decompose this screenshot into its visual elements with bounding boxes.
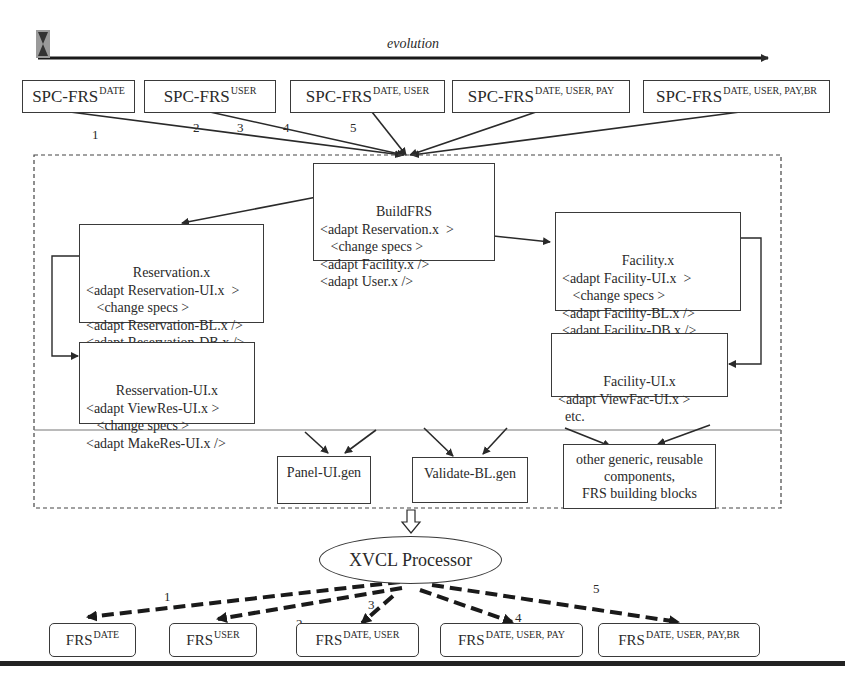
xvcl-processor-node: XVCL Processor <box>319 536 502 584</box>
reservation-title: Reservation.x <box>86 264 257 282</box>
frs-base: FRS <box>316 632 343 649</box>
output-edge-label-3: 3 <box>368 597 375 613</box>
validate-bl-gen-box: Validate-BL.gen <box>412 457 528 503</box>
frs-base: FRS <box>618 632 645 649</box>
evolution-label: evolution <box>387 36 439 52</box>
spc-base: SPC-FRS <box>306 87 372 107</box>
reservation-line: <adapt Reservation-BL.x /> <box>86 318 243 333</box>
buildfrs-title: BuildFRS <box>320 203 488 221</box>
other-components-box: other generic, reusable components, FRS … <box>563 444 716 509</box>
buildfrs-line: <adapt Reservation.x > <box>320 222 454 237</box>
spc-base: SPC-FRS <box>656 87 722 107</box>
reservation-ui-line: <adapt ViewRes-UI.x > <box>86 401 219 416</box>
edge-label-5: 5 <box>350 120 357 136</box>
edge-label-2: 2 <box>193 120 200 136</box>
spc-base: SPC-FRS <box>164 87 230 107</box>
buildfrs-line: <change specs > <box>320 239 423 254</box>
buildfrs-box: BuildFRS<adapt Reservation.x > <change s… <box>313 163 495 261</box>
facility-ui-title: Facility-UI.x <box>558 373 721 391</box>
frs-sup: DATE, USER <box>343 629 399 640</box>
other-components-line: FRS building blocks <box>564 485 715 502</box>
facility-ui-box: Facility-UI.x<adapt ViewFac-UI.x > etc. <box>551 333 728 397</box>
frs-base: FRS <box>458 632 485 649</box>
reservation-line: <adapt Reservation-UI.x > <box>86 283 239 298</box>
spc-sup: DATE <box>99 85 125 96</box>
frs-output-user: FRSUSER <box>169 623 257 657</box>
spc-box-date-user: SPC-FRSDATE, USER <box>290 80 445 113</box>
facility-title: Facility.x <box>562 252 734 270</box>
spc-box-date-user-pay: SPC-FRSDATE, USER, PAY <box>452 80 630 113</box>
frs-sup: DATE, USER, PAY <box>486 629 565 640</box>
facility-line: <adapt Facility-BL.x /> <box>562 306 695 321</box>
spc-base: SPC-FRS <box>32 87 98 107</box>
buildfrs-line: <adapt Facility.x /> <box>320 257 429 272</box>
hourglass-icon <box>36 30 50 58</box>
facility-line: <change specs > <box>562 288 665 303</box>
frs-output-date-user-pay: FRSDATE, USER, PAY <box>440 623 583 657</box>
output-edge-label-1: 1 <box>164 589 171 605</box>
facility-ui-line: <adapt ViewFac-UI.x > <box>558 392 691 407</box>
reservation-line: <change specs > <box>86 300 189 315</box>
panel-ui-gen-label: Panel-UI.gen <box>287 465 361 480</box>
reservation-ui-line: <change specs > <box>86 418 189 433</box>
other-components-line: components, <box>564 468 715 485</box>
output-edge-label-5: 5 <box>593 581 600 597</box>
edge-label-3: 3 <box>237 120 244 136</box>
frs-output-date-user: FRSDATE, USER <box>296 623 419 657</box>
other-components-line: other generic, reusable <box>564 451 715 468</box>
facility-line: <adapt Facility-UI.x > <box>562 271 691 286</box>
spc-box-user: SPC-FRSUSER <box>144 80 276 113</box>
frs-base: FRS <box>186 632 213 649</box>
frs-sup: DATE <box>94 629 120 640</box>
frs-base: FRS <box>66 632 93 649</box>
frs-sup: DATE, USER, PAY,BR <box>646 629 740 640</box>
frs-output-date: FRSDATE <box>49 623 136 657</box>
spc-sup: USER <box>231 85 257 96</box>
buildfrs-line: <adapt User.x /> <box>320 274 413 289</box>
edge-label-1: 1 <box>92 127 99 143</box>
reservation-ui-box: Resservation-UI.x<adapt ViewRes-UI.x > <… <box>79 342 255 424</box>
reservation-box: Reservation.x<adapt Reservation-UI.x > <… <box>79 224 264 323</box>
reservation-ui-title: Resservation-UI.x <box>86 382 248 400</box>
validate-bl-gen-label: Validate-BL.gen <box>424 466 516 481</box>
spc-box-date: SPC-FRSDATE <box>22 80 135 113</box>
spc-sup: DATE, USER, PAY,BR <box>723 85 817 96</box>
xvcl-processor-label: XVCL Processor <box>349 550 472 571</box>
spc-base: SPC-FRS <box>468 87 534 107</box>
spc-box-date-user-pay-br: SPC-FRSDATE, USER, PAY,BR <box>643 80 830 113</box>
facility-ui-line: etc. <box>558 409 585 424</box>
frs-output-date-user-pay-br: FRSDATE, USER, PAY,BR <box>598 623 760 657</box>
edge-label-4: 4 <box>283 120 290 136</box>
panel-ui-gen-box: Panel-UI.gen <box>277 456 371 504</box>
facility-box: Facility.x<adapt Facility-UI.x > <change… <box>555 212 741 311</box>
spc-sup: DATE, USER <box>373 85 429 96</box>
spc-sup: DATE, USER, PAY <box>535 85 614 96</box>
reservation-ui-line: <adapt MakeRes-UI.x /> <box>86 436 226 451</box>
frs-sup: USER <box>214 629 240 640</box>
